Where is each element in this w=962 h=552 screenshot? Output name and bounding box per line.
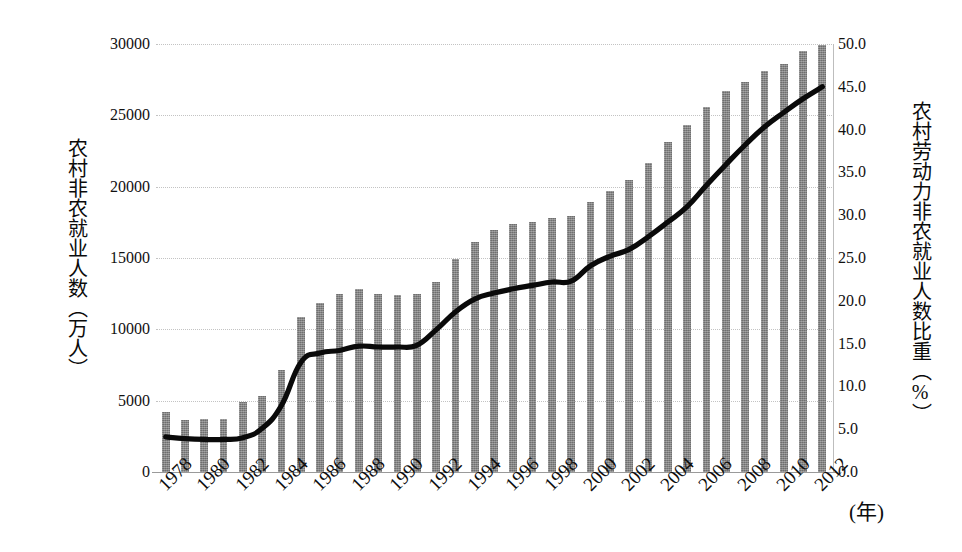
line-series-path — [166, 87, 823, 440]
x-axis-unit-label: (年) — [849, 495, 884, 525]
chart-container: 农村非农就业人数（万人） 农村劳动力非农就业人数比重（%） 3000025000… — [0, 0, 962, 552]
y-axis-right-tick-label: 15.0 — [838, 333, 900, 355]
y-axis-right-tick-label: 25.0 — [838, 247, 900, 269]
x-axis-ticks: 1978198019821984198619881990199219941996… — [156, 472, 832, 552]
y-axis-right-title: 农村劳动力非农就业人数比重（%） — [900, 62, 930, 462]
y-axis-right-tick-label: 10.0 — [838, 375, 900, 397]
y-axis-left-ticks: 300002500020000150001000050000 — [88, 0, 150, 552]
y-axis-left-tick-label: 15000 — [88, 247, 150, 269]
y-axis-left-tick-label: 20000 — [88, 176, 150, 198]
y-axis-right-tick-label: 50.0 — [838, 33, 900, 55]
y-axis-right-tick-label: 45.0 — [838, 76, 900, 98]
y-axis-left-tick-label: 25000 — [88, 104, 150, 126]
y-axis-right-tick-label: 5.0 — [838, 418, 900, 440]
y-axis-left-tick-label: 10000 — [88, 318, 150, 340]
y-axis-left-tick-label: 30000 — [88, 33, 150, 55]
plot-area — [156, 44, 832, 472]
y-axis-left-tick-label: 0 — [88, 461, 150, 483]
y-axis-left-title: 农村非农就业人数（万人） — [56, 58, 86, 458]
y-axis-right-tick-label: 35.0 — [838, 161, 900, 183]
y-axis-right-tick-label: 20.0 — [838, 290, 900, 312]
y-axis-right-tick-label: 30.0 — [838, 204, 900, 226]
y-axis-left-tick-label: 5000 — [88, 390, 150, 412]
line-series — [156, 44, 832, 472]
y-axis-right-tick-label: 40.0 — [838, 119, 900, 141]
y-axis-right-line — [833, 44, 834, 472]
